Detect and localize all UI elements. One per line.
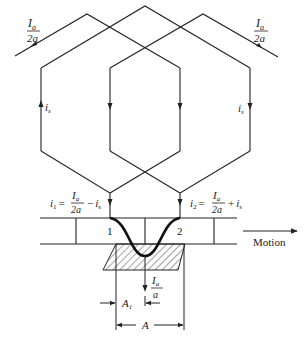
coil-current-left: is — [45, 101, 51, 115]
svg-text:Ia: Ia — [71, 189, 80, 203]
commutation-diagram: Ia 2a Ia 2a is is i1= Ia 2a −is i2= Ia 2… — [0, 0, 306, 340]
lead-left-label: Ia 2a — [27, 16, 40, 44]
lead-left-wire — [15, 14, 180, 68]
svg-text:Ia: Ia — [212, 189, 221, 203]
svg-text:2a: 2a — [27, 32, 39, 44]
svg-text:−is: −is — [87, 197, 101, 211]
svg-text:Ia: Ia — [27, 16, 36, 32]
svg-text:a: a — [153, 289, 158, 300]
svg-text:Ia: Ia — [151, 274, 160, 288]
i2-equation: i2= Ia 2a +is — [190, 189, 242, 215]
svg-text:2a: 2a — [254, 32, 266, 44]
lead-right-label: Ia 2a — [254, 16, 268, 44]
svg-text:Ia: Ia — [255, 16, 264, 32]
arrow-down-4 — [248, 103, 253, 110]
arrow-down-3 — [178, 103, 183, 110]
coil-current-right: is — [238, 102, 244, 116]
coil-wire-b — [41, 6, 250, 68]
current-arrows — [30, 41, 262, 206]
svg-text:2a: 2a — [71, 204, 81, 215]
svg-text:+is: +is — [228, 197, 242, 211]
arrow-down-i1 — [108, 199, 113, 206]
commutator — [40, 218, 237, 244]
dim-A-label: A — [141, 319, 149, 331]
arrow-down-i2 — [178, 199, 183, 206]
brush-current-label: Ia a — [151, 274, 163, 300]
dim-A1-label: A1 — [121, 297, 132, 311]
i1-equation: i1= Ia 2a −is — [50, 189, 101, 215]
motion-label: Motion — [253, 236, 286, 248]
arrow-up-left — [39, 100, 44, 107]
lead-right-wire — [110, 14, 278, 68]
svg-text:i1=: i1= — [50, 197, 65, 211]
svg-text:2a: 2a — [212, 204, 222, 215]
arrow-down-2 — [108, 103, 113, 110]
svg-text:i2=: i2= — [190, 197, 205, 211]
arrow-brush-current — [143, 285, 148, 292]
segment-label-1: 1 — [107, 225, 113, 237]
segment-label-2: 2 — [177, 225, 183, 237]
